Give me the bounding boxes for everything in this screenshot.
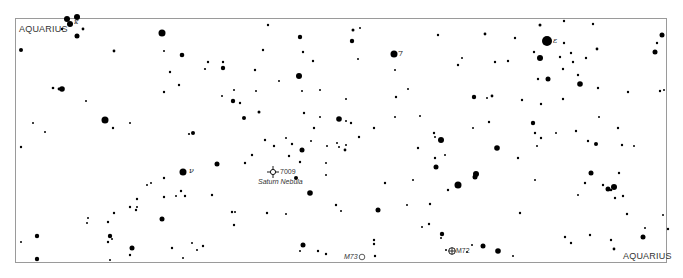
m73-asterism-icon[interactable] bbox=[359, 254, 365, 260]
star bbox=[19, 48, 23, 52]
star bbox=[577, 194, 579, 196]
star bbox=[255, 90, 257, 92]
star bbox=[653, 50, 658, 55]
star bbox=[302, 51, 304, 53]
star bbox=[570, 52, 572, 54]
star bbox=[537, 55, 543, 61]
star bbox=[87, 217, 89, 219]
star-label-epsilon: ε bbox=[553, 36, 557, 45]
star bbox=[299, 161, 301, 163]
star bbox=[417, 147, 419, 149]
star bbox=[575, 130, 577, 132]
star bbox=[317, 250, 319, 252]
constellation-label-aquarius-top: AQUARIUS bbox=[19, 24, 68, 34]
star-field bbox=[19, 14, 669, 261]
star bbox=[536, 145, 538, 147]
star bbox=[196, 249, 198, 251]
star bbox=[175, 195, 177, 197]
star bbox=[622, 195, 624, 197]
star bbox=[326, 145, 328, 147]
star bbox=[159, 30, 166, 37]
star bbox=[461, 57, 463, 59]
star bbox=[86, 222, 88, 224]
constellation-label-aquarius-bottom: AQUARIUS bbox=[623, 251, 672, 261]
star bbox=[357, 58, 359, 60]
star bbox=[577, 74, 579, 76]
star bbox=[178, 84, 180, 86]
star bbox=[472, 95, 476, 99]
star bbox=[598, 116, 600, 118]
star bbox=[319, 89, 321, 91]
chart-frame bbox=[16, 19, 667, 263]
star bbox=[433, 132, 435, 134]
star bbox=[231, 211, 233, 213]
star bbox=[594, 142, 598, 146]
star bbox=[221, 66, 225, 70]
star bbox=[108, 234, 112, 238]
star bbox=[486, 97, 488, 99]
star bbox=[35, 234, 39, 238]
saturn-nebula-icon[interactable] bbox=[267, 166, 279, 178]
star bbox=[614, 197, 616, 199]
star bbox=[191, 131, 195, 135]
star bbox=[589, 234, 591, 236]
star bbox=[310, 140, 312, 142]
star bbox=[129, 122, 131, 124]
star bbox=[345, 98, 347, 100]
star bbox=[266, 212, 268, 214]
star bbox=[391, 51, 398, 58]
star bbox=[419, 115, 421, 117]
star bbox=[641, 235, 646, 240]
m72-globular-cluster-icon[interactable] bbox=[449, 248, 456, 255]
star bbox=[656, 42, 658, 44]
star bbox=[267, 24, 269, 26]
star bbox=[163, 177, 165, 179]
star bbox=[564, 236, 566, 238]
star bbox=[662, 214, 664, 216]
star bbox=[484, 33, 487, 36]
star bbox=[563, 20, 565, 22]
star bbox=[455, 182, 462, 189]
star bbox=[312, 60, 314, 62]
star bbox=[340, 210, 342, 212]
star bbox=[491, 95, 494, 98]
star bbox=[35, 257, 39, 261]
star bbox=[438, 137, 444, 143]
star bbox=[160, 217, 165, 222]
star bbox=[239, 102, 241, 104]
star bbox=[440, 232, 444, 236]
star bbox=[540, 137, 542, 139]
star bbox=[440, 237, 442, 239]
star bbox=[325, 253, 327, 255]
star bbox=[546, 77, 551, 82]
star bbox=[163, 91, 165, 93]
star bbox=[559, 56, 561, 58]
star-label-kappa: κ bbox=[74, 18, 79, 26]
star bbox=[102, 117, 109, 124]
star bbox=[85, 100, 87, 102]
star bbox=[44, 131, 46, 133]
star bbox=[584, 182, 586, 184]
star bbox=[180, 190, 182, 192]
star bbox=[59, 86, 65, 92]
star bbox=[592, 23, 594, 25]
star bbox=[344, 149, 347, 152]
star bbox=[597, 87, 599, 89]
star bbox=[325, 162, 327, 164]
star bbox=[596, 48, 599, 51]
star bbox=[204, 68, 206, 70]
m73-label: M73 bbox=[344, 253, 358, 260]
star bbox=[285, 137, 287, 139]
star bbox=[531, 121, 535, 125]
star bbox=[163, 196, 165, 198]
star bbox=[242, 116, 246, 120]
star bbox=[434, 165, 439, 170]
star bbox=[215, 162, 220, 167]
star bbox=[395, 96, 397, 98]
star bbox=[319, 116, 321, 118]
star bbox=[473, 171, 479, 177]
star bbox=[437, 34, 439, 36]
star bbox=[184, 195, 186, 197]
star bbox=[585, 57, 587, 59]
star bbox=[345, 144, 347, 146]
